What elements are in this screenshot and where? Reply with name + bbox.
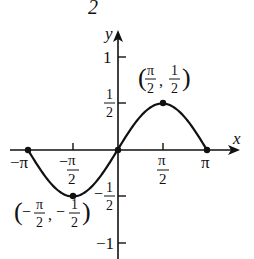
svg-text:,: ,: [159, 72, 163, 89]
annotation-max: ( π 2 , 1 2 ): [138, 63, 191, 96]
y-label-1: 1: [103, 48, 112, 67]
point-max: [160, 100, 166, 106]
svg-text:2: 2: [71, 215, 78, 230]
svg-text:1: 1: [106, 180, 113, 195]
svg-text:π: π: [147, 63, 154, 78]
sine-graph: 2 x y −π π − π 2 π 2 1 1 2 − 1: [0, 0, 254, 259]
y-axis-label: y: [103, 24, 113, 43]
header-fragment: 2: [88, 0, 98, 18]
x-label-half-pi: π 2: [157, 152, 169, 187]
svg-text:): ): [182, 63, 191, 92]
svg-text:,: ,: [48, 206, 52, 223]
svg-text:−: −: [94, 185, 103, 202]
x-label-neg-half-pi: − π 2: [59, 152, 79, 187]
annotation-min: ( − π 2 , − 1 2 ): [14, 197, 91, 230]
x-label-pi: π: [201, 153, 210, 172]
svg-text:2: 2: [159, 171, 167, 187]
svg-text:−: −: [56, 203, 65, 220]
svg-text:1: 1: [71, 197, 78, 212]
svg-text:2: 2: [147, 81, 154, 96]
svg-text:): ): [82, 197, 91, 226]
svg-text:2: 2: [68, 171, 76, 187]
x-axis-label: x: [232, 129, 241, 148]
svg-text:2: 2: [106, 105, 113, 120]
svg-text:1: 1: [171, 63, 178, 78]
svg-text:1: 1: [106, 87, 113, 102]
y-label-half: 1 2: [104, 87, 115, 120]
x-label-neg-pi: −π: [10, 153, 29, 172]
svg-text:(: (: [138, 63, 147, 92]
point-origin: [115, 147, 121, 153]
svg-text:π: π: [36, 197, 43, 212]
svg-text:2: 2: [106, 198, 113, 213]
svg-text:π: π: [68, 152, 76, 168]
svg-text:2: 2: [36, 215, 43, 230]
svg-text:2: 2: [171, 81, 178, 96]
y-label-neg-half: − 1 2: [94, 180, 115, 213]
svg-text:−: −: [59, 153, 68, 170]
svg-text:−: −: [22, 203, 31, 220]
y-label-neg-1: −1: [96, 234, 114, 253]
svg-text:π: π: [158, 152, 166, 168]
